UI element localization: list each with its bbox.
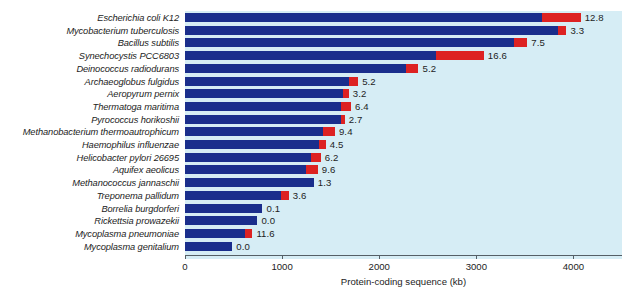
category-label: Archaeoglobus fulgidus (85, 76, 179, 88)
bar-segment-blue (185, 127, 323, 136)
x-tick-mark (185, 255, 186, 259)
bar-value-label: 3.6 (293, 190, 307, 201)
bar-segment-red (281, 191, 289, 200)
x-axis-title: Protein-coding sequence (kb) (185, 276, 622, 287)
bar-segment-blue (185, 26, 558, 35)
bar-value-label: 1.3 (318, 177, 332, 188)
x-axis-line (185, 255, 622, 256)
x-tick-mark (476, 255, 477, 259)
bar-value-label: 11.6 (256, 228, 274, 239)
bar-value-label: 16.6 (488, 50, 507, 61)
category-label: Helicobacter pylori 26695 (77, 152, 179, 164)
bar-segment-blue (185, 13, 542, 22)
bar-segment-red (323, 127, 335, 136)
x-tick-mark (282, 255, 283, 259)
bar-segment-blue (185, 115, 341, 124)
category-label: Mycoplasma genitalium (84, 241, 179, 253)
category-label: Mycoplasma pneumoniae (75, 228, 179, 240)
bar-segment-blue (185, 216, 257, 225)
bar-segment-red (558, 26, 566, 35)
x-tick-mark (573, 255, 574, 259)
category-label: Pyrococcus horikoshii (91, 114, 179, 126)
category-label: Rickettsia prowazekii (94, 215, 179, 227)
bar-segment-red (311, 153, 321, 162)
bar-segment-blue (185, 51, 436, 60)
bar-segment-red (343, 89, 349, 98)
bar-value-label: 6.4 (355, 101, 369, 112)
bar-segment-red (349, 77, 358, 86)
category-label: Borrelia burgdorferi (101, 203, 179, 215)
bar-value-label: 5.2 (422, 63, 436, 74)
x-tick-label: 0 (182, 261, 187, 273)
bar-value-label: 3.3 (570, 25, 584, 36)
x-tick-label: 1000 (271, 261, 292, 273)
bar-segment-red (319, 140, 326, 149)
bar-segment-red (436, 51, 484, 60)
bar-segment-blue (185, 89, 343, 98)
bar-value-label: 12.8 (585, 12, 604, 23)
bar-segment-red (306, 165, 318, 174)
bar-value-label: 0.1 (266, 203, 280, 214)
bar-value-label: 0.0 (261, 215, 275, 226)
bar-segment-blue (185, 140, 319, 149)
category-label: Bacillus subtilis (118, 37, 179, 49)
bar-value-label: 2.7 (349, 114, 363, 125)
bar-value-label: 3.2 (353, 88, 367, 99)
category-label: Aeropyrum pernix (107, 88, 179, 100)
bar-segment-blue (185, 77, 349, 86)
bar-value-label: 4.5 (330, 139, 344, 150)
bar-segment-blue (185, 64, 406, 73)
bar-segment-blue (185, 38, 514, 47)
x-tick-label: 2000 (369, 261, 390, 273)
category-label: Escherichia coli K12 (97, 12, 179, 24)
bar-segment-blue (185, 102, 341, 111)
bar-value-label: 9.4 (339, 126, 353, 137)
bar-segment-blue (185, 229, 245, 238)
bar-segment-red (406, 64, 418, 73)
category-label: Methanococcus jannaschii (72, 177, 179, 189)
bar-segment-blue (185, 191, 281, 200)
bars-layer: 12.83.37.516.65.25.23.26.42.79.44.56.29.… (185, 11, 622, 252)
bar-segment-red (514, 38, 527, 47)
bar-value-label: 6.2 (325, 152, 339, 163)
category-label: Synechocystis PCC6803 (79, 50, 179, 62)
bar-segment-red (542, 13, 580, 22)
category-label: Treponema pallidum (97, 190, 179, 202)
bar-segment-red (245, 229, 252, 238)
bar-segment-red (341, 115, 345, 124)
category-label: Deinococcus radiodurans (76, 63, 179, 75)
x-tick-label: 4000 (563, 261, 584, 273)
category-label: Thermatoga maritima (93, 101, 179, 113)
category-label: Aquifex aeolicus (113, 164, 179, 176)
category-label: Methanobacterium thermoautrophicum (23, 126, 179, 138)
x-tick-mark (379, 255, 380, 259)
x-tick-label: 3000 (466, 261, 487, 273)
bar-value-label: 5.2 (362, 76, 376, 87)
bar-value-label: 7.5 (531, 37, 545, 48)
bar-segment-blue (185, 165, 306, 174)
bar-segment-blue (185, 204, 262, 213)
category-label: Mycobacterium tuberculosis (66, 25, 179, 37)
bar-segment-blue (185, 178, 314, 187)
bar-segment-blue (185, 242, 232, 251)
category-label: Haemophilus influenzae (82, 139, 179, 151)
chart-figure: Escherichia coli K12Mycobacterium tuberc… (0, 0, 637, 296)
bar-value-label: 0.0 (236, 241, 250, 252)
bar-value-label: 9.6 (322, 164, 336, 175)
bar-segment-red (341, 102, 351, 111)
bar-segment-blue (185, 153, 311, 162)
category-axis: Escherichia coli K12Mycobacterium tuberc… (0, 11, 182, 252)
